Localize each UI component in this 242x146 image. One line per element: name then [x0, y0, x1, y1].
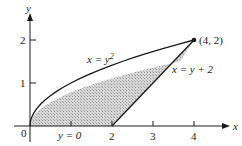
line-label: x = y + 2 [171, 63, 214, 75]
intersection-point [192, 38, 197, 43]
x-axis-label: x [232, 120, 238, 132]
x-tick-label-3: 3 [150, 130, 156, 142]
origin-label: 0 [21, 127, 27, 139]
x-axis-arrow-icon [222, 123, 230, 129]
y-axis-arrow-icon [27, 13, 33, 21]
parabola-label-main: x = y [86, 53, 110, 65]
bottom-boundary-label: y = 0 [57, 129, 82, 141]
region-diagram: y x 0 2 3 4 1 2 y = 0 (4, 2) x = y2 x = … [0, 0, 242, 146]
parabola-label: x = y2 [86, 52, 114, 65]
y-tick-label-2: 2 [20, 34, 26, 46]
x-tick-label-4: 4 [191, 130, 197, 142]
parabola-label-exponent: 2 [110, 52, 114, 61]
y-axis-label: y [25, 2, 31, 14]
y-tick-label-1: 1 [20, 77, 26, 89]
point-label: (4, 2) [199, 34, 223, 47]
x-tick-label-2: 2 [109, 130, 115, 142]
